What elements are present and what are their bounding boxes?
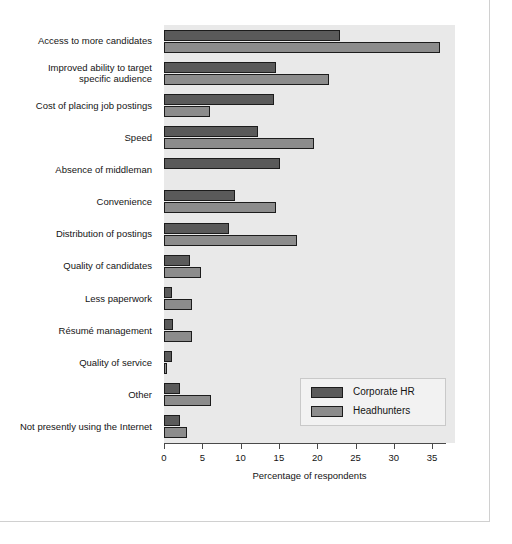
bar-corporate-hr [164, 287, 172, 298]
category-label: Cost of placing job postings [0, 100, 158, 112]
bar-headhunters [164, 427, 187, 438]
bar-corporate-hr [164, 351, 172, 362]
bar-headhunters [164, 138, 314, 149]
x-tick [432, 443, 433, 449]
x-tick [202, 443, 203, 449]
bar-corporate-hr [164, 126, 258, 137]
bar-headhunters [164, 363, 167, 374]
x-tick [317, 443, 318, 449]
category-label: Less paperwork [0, 293, 158, 305]
category-label: Access to more candidates [0, 35, 158, 47]
grouped-bar-chart: Access to more candidatesImproved abilit… [0, 0, 512, 544]
category-label: Absence of middleman [0, 164, 158, 176]
legend: Corporate HR Headhunters [300, 378, 446, 426]
x-tick [241, 443, 242, 449]
bar-corporate-hr [164, 255, 190, 266]
x-tick-label: 20 [305, 452, 329, 463]
x-tick [164, 443, 165, 449]
legend-label-corporate-hr: Corporate HR [353, 386, 415, 397]
x-tick [279, 443, 280, 449]
bar-headhunters [164, 42, 440, 53]
bar-corporate-hr [164, 223, 229, 234]
x-tick-label: 5 [190, 452, 214, 463]
bar-corporate-hr [164, 319, 173, 330]
legend-swatch-headhunters [311, 406, 343, 417]
bar-headhunters [164, 202, 276, 213]
category-label: Speed [0, 132, 158, 144]
legend-label-headhunters: Headhunters [353, 405, 410, 416]
x-tick-label: 25 [344, 452, 368, 463]
x-tick-label: 35 [420, 452, 444, 463]
x-tick-label: 0 [152, 452, 176, 463]
bar-corporate-hr [164, 158, 280, 169]
x-tick-label: 30 [382, 452, 406, 463]
x-tick [394, 443, 395, 449]
category-label: Distribution of postings [0, 228, 158, 240]
x-tick [356, 443, 357, 449]
bar-corporate-hr [164, 415, 180, 426]
x-tick-label: 15 [267, 452, 291, 463]
bar-corporate-hr [164, 383, 180, 394]
bar-headhunters [164, 267, 201, 278]
bar-corporate-hr [164, 94, 274, 105]
bar-headhunters [164, 106, 210, 117]
bar-headhunters [164, 299, 192, 310]
category-label: Convenience [0, 196, 158, 208]
bar-corporate-hr [164, 30, 340, 41]
bar-corporate-hr [164, 62, 276, 73]
category-label: Résumé management [0, 325, 158, 337]
bar-headhunters [164, 395, 211, 406]
x-axis-title: Percentage of respondents [164, 470, 455, 481]
category-axis-labels: Access to more candidatesImproved abilit… [0, 25, 158, 443]
x-axis-line [164, 443, 446, 444]
legend-swatch-corporate-hr [311, 387, 343, 398]
category-label: Improved ability to target specific audi… [0, 62, 158, 85]
category-label: Quality of candidates [0, 260, 158, 272]
bar-headhunters [164, 74, 329, 85]
bar-headhunters [164, 331, 192, 342]
x-tick-label: 10 [229, 452, 253, 463]
category-label: Not presently using the Internet [0, 421, 158, 433]
bar-headhunters [164, 235, 297, 246]
category-label: Other [0, 389, 158, 401]
bar-corporate-hr [164, 190, 235, 201]
category-label: Quality of service [0, 357, 158, 369]
